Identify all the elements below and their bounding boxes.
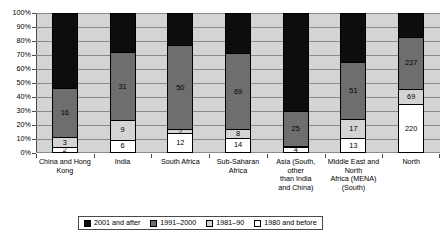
bar-segment[interactable]: 18 <box>110 13 136 52</box>
bar-segment[interactable]: 8 <box>225 129 251 138</box>
stacked-bar[interactable]: 3769814 <box>225 13 251 153</box>
x-axis-tick-mark <box>382 154 383 158</box>
stacked-bar[interactable]: 1950212 <box>167 13 193 153</box>
bar-segment-value-label: 16 <box>61 109 69 117</box>
legend-item[interactable]: 1980 and before <box>254 219 316 227</box>
bar-segment[interactable]: 17 <box>340 119 366 138</box>
bar-slot: 241632 <box>36 13 94 153</box>
bar-segment-value-label: 14 <box>234 141 242 149</box>
bar-segment-value-label: 17 <box>349 125 357 133</box>
legend-label: 2001 and after <box>94 219 140 227</box>
bar-segment[interactable]: 6 <box>110 140 136 153</box>
bar-segment[interactable]: 43 <box>340 13 366 62</box>
x-axis-category-line: South Africa <box>152 158 208 167</box>
bar-group: 2416321831961950212376981471251443511713… <box>36 13 440 153</box>
bar-segment[interactable]: 106 <box>398 13 424 37</box>
y-axis-tick-label: 100% <box>13 9 31 17</box>
legend-label: 1981–90 <box>216 219 244 227</box>
bar-segment[interactable]: 24 <box>52 13 78 88</box>
x-axis-tick-mark <box>151 154 152 158</box>
y-axis-tick-label: 70% <box>17 51 31 59</box>
bar-segment[interactable]: 237 <box>398 37 424 90</box>
bar-segment[interactable]: 69 <box>398 89 424 104</box>
bar-segment-value-label: 71 <box>292 59 300 67</box>
x-axis-category-label: India <box>94 154 152 206</box>
bar-segment[interactable]: 37 <box>225 13 251 53</box>
x-axis-category-line: and China) <box>268 184 324 193</box>
bar-segment[interactable]: 2 <box>52 147 78 153</box>
bar-segment[interactable]: 50 <box>167 45 193 129</box>
stacked-bar-chart: 0%10%20%30%40%50%60%70%80%90%100% 241632… <box>0 0 443 238</box>
bar-segment-value-label: 2 <box>63 147 67 153</box>
bar-segment-value-label: 3 <box>63 139 67 147</box>
bar-segment-value-label: 19 <box>176 26 184 34</box>
x-axis-tick-mark <box>439 154 440 158</box>
stacked-bar[interactable]: 241632 <box>52 13 78 153</box>
x-axis-category-label: South Africa <box>151 154 209 206</box>
x-axis-tick-mark <box>209 154 210 158</box>
x-axis-category-label: Asia (South,otherthan Indiaand China) <box>267 154 325 206</box>
bar-segment-value-label: 69 <box>234 88 242 96</box>
legend-item[interactable]: 1981–90 <box>206 219 244 227</box>
stacked-bar[interactable]: 712514 <box>283 13 309 153</box>
bar-segment[interactable]: 13 <box>340 138 366 153</box>
bar-segment-value-label: 237 <box>405 59 417 67</box>
bar-segment[interactable]: 69 <box>225 53 251 128</box>
bar-segment-value-label: 9 <box>121 126 125 134</box>
x-axis-category-line: Kong <box>37 167 93 176</box>
x-axis-tick-mark <box>36 154 37 158</box>
x-axis-labels: China and HongKongIndiaSouth AfricaSub-S… <box>36 154 440 206</box>
stacked-bar[interactable]: 43511713 <box>340 13 366 153</box>
legend-label: 1980 and before <box>264 219 316 227</box>
bar-segment[interactable]: 4 <box>283 147 309 153</box>
bar-segment-value-label: 31 <box>118 83 126 91</box>
bar-segment[interactable]: 51 <box>340 62 366 120</box>
y-axis-tick-label: 40% <box>17 93 31 101</box>
bar-slot: 712514 <box>267 13 325 153</box>
y-axis-tick-label: 80% <box>17 37 31 45</box>
bar-segment[interactable]: 14 <box>225 138 251 153</box>
bar-segment[interactable]: 25 <box>283 111 309 146</box>
x-axis-category-label: North <box>382 154 440 206</box>
y-axis-tick-label: 10% <box>17 135 31 143</box>
bar-segment[interactable]: 71 <box>283 13 309 111</box>
bar-segment-value-label: 8 <box>236 130 240 138</box>
x-axis-category-line: India <box>95 158 151 167</box>
x-axis-category-label: Sub-SaharanAfrica <box>209 154 267 206</box>
chart-legend: 2001 and after1991–20001981–901980 and b… <box>78 216 323 230</box>
legend-item[interactable]: 1991–2000 <box>150 219 196 227</box>
y-axis-tick-label: 60% <box>17 65 31 73</box>
bar-segment-value-label: 106 <box>405 21 417 29</box>
legend-swatch-icon <box>84 220 91 227</box>
bar-segment-value-label: 43 <box>349 34 357 42</box>
y-axis-tick-label: 20% <box>17 121 31 129</box>
bar-segment[interactable]: 31 <box>110 52 136 120</box>
bar-segment[interactable]: 12 <box>167 133 193 153</box>
x-axis-tick-mark <box>267 154 268 158</box>
legend-item[interactable]: 2001 and after <box>84 219 140 227</box>
bar-segment-value-label: 69 <box>407 93 415 101</box>
x-axis-tick-mark <box>325 154 326 158</box>
bar-segment[interactable]: 220 <box>398 104 424 153</box>
bar-segment-value-label: 24 <box>61 47 69 55</box>
stacked-bar[interactable]: 10623769220 <box>398 13 424 153</box>
bar-segment[interactable]: 19 <box>167 13 193 45</box>
bar-segment-value-label: 18 <box>118 29 126 37</box>
x-axis-category-line: Africa <box>210 167 266 176</box>
legend-swatch-icon <box>150 220 157 227</box>
stacked-bar[interactable]: 183196 <box>110 13 136 153</box>
bar-segment-value-label: 13 <box>349 142 357 150</box>
bar-segment[interactable]: 16 <box>52 88 78 138</box>
bar-segment[interactable]: 3 <box>52 137 78 146</box>
bar-segment-value-label: 51 <box>349 87 357 95</box>
x-axis-tick-mark <box>94 154 95 158</box>
bar-slot: 183196 <box>94 13 152 153</box>
plot-area: 2416321831961950212376981471251443511713… <box>36 13 440 153</box>
bar-segment-value-label: 25 <box>292 125 300 133</box>
bar-segment[interactable]: 9 <box>110 120 136 140</box>
legend-swatch-icon <box>254 220 261 227</box>
bar-segment-value-label: 37 <box>234 30 242 38</box>
y-axis: 0%10%20%30%40%50%60%70%80%90%100% <box>0 13 36 154</box>
bar-segment-value-label: 50 <box>176 84 184 92</box>
x-axis-category-line: (South) <box>326 184 382 193</box>
